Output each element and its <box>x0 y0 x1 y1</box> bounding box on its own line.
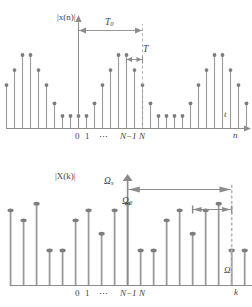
stem-marker <box>190 232 196 236</box>
stem-marker <box>21 53 25 57</box>
stem-marker <box>173 114 177 118</box>
stem-marker <box>99 232 105 236</box>
stem-marker <box>213 53 217 57</box>
stem-marker <box>138 249 144 253</box>
tick-label-0-frequency: 0 <box>75 289 80 298</box>
stem-marker <box>221 53 225 57</box>
stem-marker <box>245 102 249 106</box>
x-axis-label-n: n <box>233 131 238 140</box>
stem-marker <box>229 68 233 72</box>
annotation-label-T0: T0 <box>105 18 114 28</box>
stem-group-time <box>5 53 249 128</box>
stem-marker <box>205 68 209 72</box>
tick-label-ellipsis-time: ⋯ <box>99 133 108 142</box>
stem-marker <box>53 102 57 106</box>
tick-label-0-time: 0 <box>75 132 80 141</box>
stem-marker <box>197 83 201 87</box>
stem-marker <box>149 102 153 106</box>
stem-marker <box>165 114 169 118</box>
tick-label-Nminus1-time: N−1 <box>120 132 137 141</box>
stem-marker <box>69 114 73 118</box>
stem-marker <box>86 208 92 212</box>
stem-marker <box>33 202 39 206</box>
stem-marker <box>112 208 118 212</box>
annotation-label-T: T <box>143 45 148 55</box>
stem-marker <box>101 83 105 87</box>
stem-marker <box>216 202 222 206</box>
x-axis-label-t: t <box>224 110 227 119</box>
stem-group-frequency <box>7 202 252 286</box>
tick-label-N-frequency: N <box>139 289 145 298</box>
stem-marker <box>29 53 33 57</box>
stem-marker <box>203 208 209 212</box>
tick-label-ellipsis-frequency: ⋯ <box>99 290 108 299</box>
stem-marker <box>151 249 157 253</box>
stem-marker <box>189 102 193 106</box>
tick-label-1-time: 1 <box>85 132 90 141</box>
annotation-label-Omega-s: Ωs <box>104 177 113 187</box>
stem-marker <box>60 249 66 253</box>
stem-marker <box>45 83 49 87</box>
y-axis-arrow-time <box>75 15 81 22</box>
chart-frequency-domain: |X(k)| Ω k 0 1 ⋯ N−1 N Ωs Ω0 <box>0 152 252 307</box>
y-axis-arrow-frequency <box>123 174 133 181</box>
figure-root: |x(n)| t n 0 1 ⋯ N−1 N T0 T <box>0 0 252 307</box>
stem-marker <box>85 114 89 118</box>
chart-time-domain: |x(n)| t n 0 1 ⋯ N−1 N T0 T <box>0 0 252 152</box>
stem-marker <box>73 218 79 222</box>
stem-marker <box>177 208 183 212</box>
annotation-Omega-s-arrow <box>128 187 230 193</box>
annotation-Omega-0-arrow <box>193 206 232 214</box>
stem-marker <box>133 68 137 72</box>
annotation-label-Omega-0: Ω0 <box>122 197 132 207</box>
tick-label-Nminus1-frequency: N−1 <box>120 289 137 298</box>
time-domain-plot <box>0 0 252 152</box>
stem-marker <box>242 249 248 253</box>
frequency-domain-plot <box>0 152 252 307</box>
annotation-T0-arrow <box>79 28 142 34</box>
tick-label-N-time: N <box>139 132 145 141</box>
stem-marker <box>164 218 170 222</box>
stem-marker <box>181 114 185 118</box>
stem-marker <box>46 249 52 253</box>
stem-marker <box>93 102 97 106</box>
stem-marker <box>61 114 65 118</box>
x-axis-label-omega: Ω <box>224 266 231 275</box>
stem-marker <box>157 114 161 118</box>
stem-marker <box>37 68 41 72</box>
stem-marker <box>237 83 241 87</box>
y-axis-label-frequency: |X(k)| <box>55 172 76 181</box>
x-axis-arrow-time <box>244 125 251 131</box>
stem-marker <box>109 68 113 72</box>
stem-marker <box>7 208 13 212</box>
stem-marker <box>13 68 17 72</box>
annotation-T-arrow <box>127 56 143 64</box>
stem-marker <box>20 218 26 222</box>
y-axis-label-time: |x(n)| <box>57 13 76 22</box>
x-axis-label-k: k <box>234 288 238 297</box>
stem-marker <box>5 83 9 87</box>
tick-label-1-frequency: 1 <box>85 289 90 298</box>
stem-marker <box>117 53 121 57</box>
